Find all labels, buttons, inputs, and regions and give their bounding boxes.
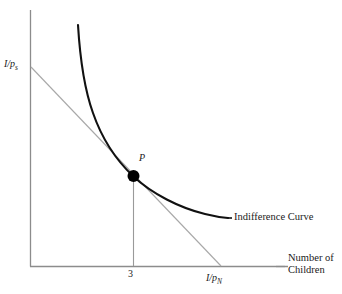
- indifference-curve-figure: I/ps I/pN P 3 Indifference Curve Number …: [0, 0, 342, 294]
- y-axis-intercept-subscript: s: [15, 63, 18, 72]
- y-axis-intercept-text: I/p: [4, 58, 15, 69]
- indifference-curve-label: Indifference Curve: [234, 211, 313, 223]
- x-axis-title: Number of Children: [288, 252, 334, 277]
- indifference-curve: [78, 25, 228, 218]
- x-axis-intercept-label: I/pN: [206, 272, 222, 287]
- x-axis-title-line2: Children: [288, 264, 334, 276]
- point-p-label: P: [139, 152, 145, 164]
- x-axis-intercept-text: I/p: [206, 272, 217, 283]
- budget-line: [31, 67, 221, 266]
- point-p-marker: [128, 170, 140, 182]
- plot-canvas: [0, 0, 342, 294]
- x-tick-label-3: 3: [128, 268, 133, 280]
- x-axis-intercept-subscript: N: [217, 277, 222, 286]
- x-axis-title-line1: Number of: [288, 252, 334, 263]
- y-axis-intercept-label: I/ps: [4, 58, 18, 73]
